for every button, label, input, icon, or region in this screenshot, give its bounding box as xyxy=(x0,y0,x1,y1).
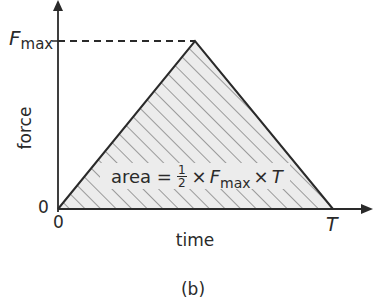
y-tick-zero: 0 xyxy=(38,199,49,216)
times-sign: × xyxy=(254,168,269,186)
y-axis-label: force xyxy=(17,107,34,150)
y-axis xyxy=(52,0,63,212)
y-tick-fmax: Fmax xyxy=(9,28,53,48)
times-sign: × xyxy=(192,168,207,186)
half-fraction: 1 2 xyxy=(177,164,187,189)
x-tick-zero: 0 xyxy=(53,214,64,231)
force-time-diagram xyxy=(0,0,383,306)
area-annotation: area = 1 2 × Fmax × T xyxy=(111,164,283,189)
y-axis-arrow-icon xyxy=(53,0,63,11)
t-term: T xyxy=(272,168,283,186)
area-prefix: area = xyxy=(111,168,172,186)
x-tick-t: T xyxy=(326,215,338,234)
fmax-term: Fmax xyxy=(210,168,251,186)
x-axis-label: time xyxy=(176,232,214,249)
x-axis-arrow-icon xyxy=(361,204,373,214)
figure-caption: (b) xyxy=(181,281,205,298)
